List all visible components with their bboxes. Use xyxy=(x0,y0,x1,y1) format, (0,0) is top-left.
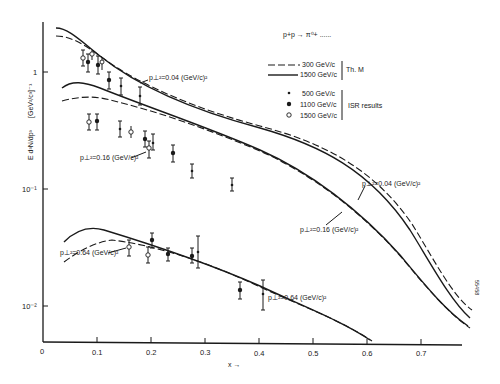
x-tick-label: 0 xyxy=(40,347,44,356)
x-tick-label: 0.5 xyxy=(308,349,318,358)
isr-data-points xyxy=(81,50,265,310)
legend-label: 500 GeV/c xyxy=(302,90,336,97)
data-point-filled xyxy=(86,54,90,72)
curve-016-300 xyxy=(62,97,470,328)
x-tick-label: 0.6 xyxy=(362,349,372,358)
legend-label: 1500 GeV/c xyxy=(300,112,337,119)
small-dot-marker-icon xyxy=(288,92,291,95)
annotation-p016-left: p⊥²=0.16 (GeV/c)² xyxy=(80,154,139,162)
curve-064-1500 xyxy=(64,229,370,341)
y-ticks: 1 10⁻¹ 10⁻² E d³N/dp³ [GeV²/c³]⁻¹ xyxy=(22,68,48,311)
legend: 300 GeV/c 1500 GeV/c Th. M 500 GeV/c 110… xyxy=(268,61,383,120)
curve-004-300 xyxy=(56,36,472,310)
curve-004-1500 xyxy=(56,28,470,318)
x-tick-label: 0.3 xyxy=(200,348,210,357)
reaction-title: p+p → π⁰+ ...... xyxy=(283,31,331,39)
annotation-p004-left: p⊥²=0.04 (GeV/c)² xyxy=(149,74,208,82)
legend-label: 1500 GeV/c xyxy=(300,71,337,78)
x-tick-label: 0.4 xyxy=(254,349,264,358)
figure-id: 55458 xyxy=(474,280,480,295)
data-point-small xyxy=(119,78,123,95)
y-tick-label: 10⁻¹ xyxy=(22,185,37,194)
x-tick-label: 0.2 xyxy=(146,348,156,357)
annotation-p064-left: p⊥²=0.64 (GeV/c)² xyxy=(60,249,119,257)
legend-group-label: Th. M xyxy=(346,66,364,73)
annotation-p016-right: p⊥²=0.16 (GeV/c)² xyxy=(300,226,359,234)
x-axis xyxy=(43,342,462,345)
annotation-p064-right: p⊥²=0.64 (GeV/c)² xyxy=(268,294,327,302)
physics-plot: 0 0.1 0.2 0.3 0.4 0.5 0.6 0.7 x → 1 10⁻¹… xyxy=(0,0,500,384)
legend-group-label: ISR results xyxy=(348,102,383,109)
y-tick-label: 1 xyxy=(33,68,37,77)
annotations: p⊥²=0.04 (GeV/c)² p⊥²=0.16 (GeV/c)² p⊥²=… xyxy=(60,74,480,302)
y-axis-label: E d³N/dp³ xyxy=(27,129,35,160)
x-tick-label: 0.7 xyxy=(416,349,426,358)
x-axis-label: x → xyxy=(228,361,240,368)
legend-label: 1100 GeV/c xyxy=(300,101,337,108)
y-tick-label: 10⁻² xyxy=(22,302,37,311)
y-axis-units: [GeV²/c³]⁻¹ xyxy=(27,83,35,118)
filled-circle-marker-icon xyxy=(287,102,291,106)
annotation-p004-right: p⊥²=0.04 (GeV/c)² xyxy=(362,180,421,188)
x-ticks: 0 0.1 0.2 0.3 0.4 0.5 0.6 0.7 x → xyxy=(40,337,426,368)
x-tick-label: 0.1 xyxy=(92,348,102,357)
data-point-open xyxy=(81,50,85,66)
open-circle-marker-icon xyxy=(287,113,291,117)
legend-label: 300 GeV/c xyxy=(302,61,336,68)
